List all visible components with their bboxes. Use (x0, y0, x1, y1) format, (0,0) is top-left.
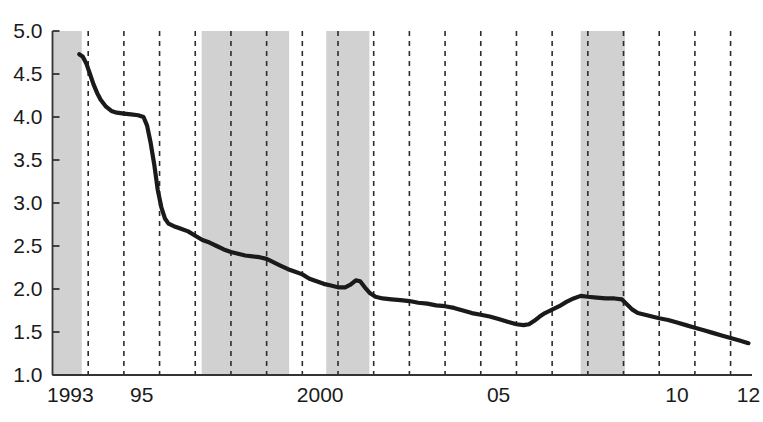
line-chart: 5.04.54.03.53.02.52.01.51.0 199395200005… (0, 0, 763, 422)
data-series-layer (79, 54, 748, 343)
y-tick-label-3.0: 3.0 (13, 191, 42, 214)
y-tick-label-1.0: 1.0 (13, 363, 42, 386)
x-tick-label-10: 10 (665, 383, 688, 406)
x-tick-label-95: 95 (130, 383, 153, 406)
y-tick-label-4.0: 4.0 (13, 105, 42, 128)
y-tick-label-2.5: 2.5 (13, 234, 42, 257)
x-tick-label-12: 12 (737, 383, 760, 406)
x-tick-label-05: 05 (487, 383, 510, 406)
y-tick-label-5.0: 5.0 (13, 19, 42, 42)
y-tick-label-2.0: 2.0 (13, 277, 42, 300)
data-line-series-1 (79, 54, 748, 343)
gridlines-layer (88, 31, 730, 375)
y-tick-label-3.5: 3.5 (13, 148, 42, 171)
y-tick-label-4.5: 4.5 (13, 62, 42, 85)
chart-container: 5.04.54.03.53.02.52.01.51.0 199395200005… (0, 0, 763, 422)
x-axis-tick-labels: 1993952000051012 (47, 383, 760, 406)
x-tick-label-1993: 1993 (47, 383, 94, 406)
x-tick-label-2000: 2000 (297, 383, 344, 406)
y-axis-tick-labels: 5.04.54.03.53.02.52.01.51.0 (13, 19, 42, 386)
recession-band-3 (326, 31, 369, 375)
axes-layer (53, 31, 753, 375)
recession-band-2 (202, 31, 289, 375)
y-tick-label-1.5: 1.5 (13, 320, 42, 343)
